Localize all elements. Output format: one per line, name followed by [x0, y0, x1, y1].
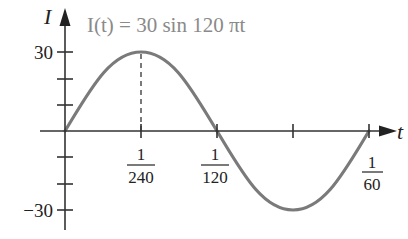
- chart-title: I(t) = 30 sin 120 πt: [87, 13, 246, 37]
- svg-text:1: 1: [137, 145, 146, 164]
- x-axis-arrow-icon: [379, 126, 397, 137]
- x-tick-label-1-240: 1 240: [127, 145, 155, 187]
- svg-text:120: 120: [202, 168, 228, 187]
- x-tick-label-1-60: 1 60: [362, 153, 383, 194]
- x-axis-label: t: [397, 119, 404, 144]
- y-axis-arrow-icon: [60, 8, 71, 26]
- sine-chart: I t I(t) = 30 sin 120 πt 30 −30 1 240 1 …: [0, 0, 408, 239]
- y-tick-label-neg30: −30: [23, 200, 53, 221]
- svg-text:60: 60: [364, 175, 381, 194]
- svg-text:240: 240: [128, 168, 154, 187]
- svg-text:1: 1: [211, 145, 220, 164]
- y-tick-label-30: 30: [34, 42, 53, 63]
- y-axis-label: I: [43, 4, 53, 29]
- x-tick-label-1-120: 1 120: [201, 145, 229, 187]
- svg-text:1: 1: [368, 153, 377, 172]
